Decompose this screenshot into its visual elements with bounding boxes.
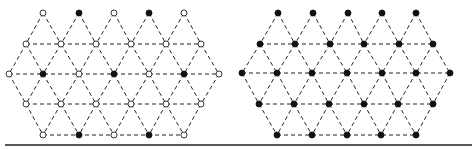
filled-site-icon [291, 101, 297, 107]
left-lattice-diagonal-edge [201, 74, 219, 104]
right-lattice-diagonal-edge [295, 44, 312, 73]
right-lattice-diagonal-edge [347, 44, 364, 73]
filled-site-icon [345, 10, 351, 16]
right-lattice-diagonal-edge [416, 44, 433, 73]
left-lattice-diagonal-edge [149, 13, 166, 44]
open-site-icon [93, 41, 99, 47]
filled-site-icon [344, 70, 350, 76]
filled-site-icon [111, 71, 117, 77]
right-lattice-diagonal-edge [329, 73, 347, 104]
right-lattice-diagonal-edge [433, 73, 450, 104]
right-lattice-diagonal-edge [242, 44, 260, 73]
open-site-icon [128, 41, 134, 47]
filled-site-icon [430, 101, 436, 107]
right-lattice-diagonal-edge [312, 104, 329, 135]
left-lattice-diagonal-edge [166, 13, 184, 44]
open-site-icon [163, 101, 169, 107]
filled-site-icon [413, 10, 419, 16]
left-lattice-diagonal-edge [96, 104, 114, 135]
left-lattice-diagonal-edge [26, 13, 43, 44]
filled-site-icon [378, 132, 384, 138]
right-lattice-diagonal-edge [330, 44, 347, 73]
right-lattice-diagonal-edge [416, 104, 433, 135]
left-lattice-diagonal-edge [131, 74, 149, 104]
right-lattice-diagonal-edge [399, 13, 416, 44]
left-lattice-diagonal-edge [131, 44, 149, 74]
left-lattice-diagonal-edge [114, 104, 131, 135]
right-lattice-diagonal-edge [259, 73, 277, 104]
left-lattice-diagonal-edge [96, 44, 114, 74]
right-lattice-diagonal-edge [416, 13, 433, 44]
left-lattice-diagonal-edge [201, 44, 219, 74]
filled-site-icon [309, 70, 315, 76]
left-lattice-diagonal-edge [184, 44, 201, 74]
right-lattice-diagonal-edge [259, 104, 277, 135]
right-lattice-diagonal-edge [382, 13, 399, 44]
filled-site-icon [181, 71, 187, 77]
right-lattice-diagonal-edge [277, 104, 294, 135]
filled-site-icon [327, 41, 333, 47]
left-lattice-diagonal-edge [166, 104, 184, 135]
right-lattice-diagonal-edge [295, 13, 313, 44]
filled-site-icon [326, 101, 332, 107]
left-lattice-diagonal-edge [114, 44, 131, 74]
filled-site-icon [274, 132, 280, 138]
right-lattice-diagonal-edge [348, 13, 364, 44]
filled-site-icon [275, 10, 281, 16]
filled-site-icon [396, 41, 402, 47]
filled-site-icon [239, 70, 245, 76]
right-lattice-diagonal-edge [347, 73, 364, 104]
filled-site-icon [309, 132, 315, 138]
open-site-icon [23, 101, 29, 107]
left-lattice-diagonal-edge [26, 44, 43, 74]
right-lattice-diagonal-edge [364, 73, 382, 104]
left-lattice-diagonal-edge [166, 44, 184, 74]
right-lattice-diagonal-edge [398, 104, 416, 135]
left-lattice-diagonal-edge [96, 13, 114, 44]
open-site-icon [6, 71, 12, 77]
open-site-icon [58, 101, 64, 107]
right-lattice-diagonal-edge [382, 44, 399, 73]
filled-site-icon [146, 132, 152, 138]
left-lattice-diagonal-edge [43, 44, 61, 74]
right-lattice-diagonal-edge [416, 73, 433, 104]
right-lattice-diagonal-edge [398, 73, 416, 104]
left-lattice-diagonal-edge [131, 13, 149, 44]
open-site-icon [40, 132, 46, 138]
left-lattice-diagonal-edge [184, 74, 201, 104]
right-lattice-diagonal-edge [260, 44, 277, 73]
open-site-icon [181, 10, 187, 16]
left-lattice-diagonal-edge [61, 104, 79, 135]
open-site-icon [93, 101, 99, 107]
left-lattice-diagonal-edge [79, 74, 96, 104]
left-lattice-diagonal-edge [26, 74, 43, 104]
right-lattice-diagonal-edge [433, 44, 450, 73]
left-lattice-diagonal-edge [43, 13, 61, 44]
left-lattice-diagonal-edge [79, 13, 96, 44]
left-lattice-diagonal-edge [79, 104, 96, 135]
open-site-icon [40, 10, 46, 16]
open-site-icon [58, 41, 64, 47]
left-lattice-diagonal-edge [149, 104, 166, 135]
left-lattice-diagonal-edge [9, 74, 26, 104]
right-lattice-diagonal-edge [364, 13, 382, 44]
right-lattice-diagonal-edge [382, 73, 398, 104]
right-lattice-diagonal-edge [277, 73, 294, 104]
filled-site-icon [76, 10, 82, 16]
left-lattice-diagonal-edge [9, 44, 26, 74]
open-site-icon [181, 132, 187, 138]
right-lattice-diagonal-edge [312, 44, 330, 73]
filled-site-icon [344, 132, 350, 138]
right-lattice-diagonal-edge [260, 13, 278, 44]
left-lattice-diagonal-edge [96, 74, 114, 104]
right-lattice-diagonal-edge [312, 73, 329, 104]
left-lattice-diagonal-edge [166, 74, 184, 104]
filled-site-icon [379, 70, 385, 76]
left-lattice-diagonal-edge [61, 13, 79, 44]
filled-site-icon [40, 71, 46, 77]
filled-site-icon [379, 10, 385, 16]
filled-site-icon [447, 70, 453, 76]
right-lattice-diagonal-edge [364, 44, 382, 73]
right-lattice-diagonal-edge [329, 104, 347, 135]
open-site-icon [146, 71, 152, 77]
